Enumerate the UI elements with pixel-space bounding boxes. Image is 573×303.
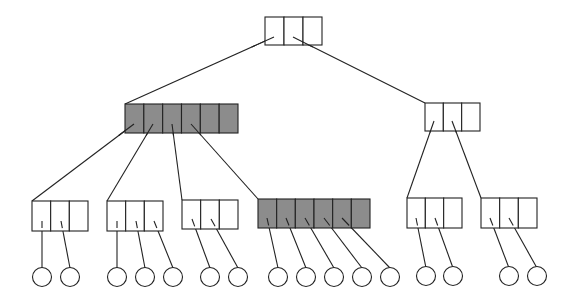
node-cell (107, 201, 126, 231)
node-cell (314, 199, 333, 228)
node-cell (200, 104, 219, 133)
node-leaf-1 (32, 201, 88, 231)
node-cell (500, 198, 519, 228)
node-cell (144, 201, 163, 231)
record-circle (229, 268, 248, 287)
node-cell (144, 104, 163, 133)
leaf-records (33, 267, 547, 287)
record-circle (417, 267, 436, 286)
node-root (265, 17, 322, 45)
node-cell (258, 199, 277, 228)
record-circle (164, 268, 183, 287)
node-cell (407, 198, 425, 228)
node-cell (265, 17, 284, 45)
node-cell (182, 104, 201, 133)
b-tree-diagram (0, 0, 573, 303)
node-cell (443, 103, 461, 131)
record-circle (297, 268, 316, 287)
node-leaf-5 (407, 198, 462, 228)
record-circle (269, 268, 288, 287)
node-cell (32, 201, 51, 231)
node-cell (518, 198, 537, 228)
node-cell (425, 198, 443, 228)
node-cell (126, 201, 145, 231)
node-cell (219, 200, 238, 229)
record-circle (444, 267, 463, 286)
record-circle (381, 268, 400, 287)
node-cell (444, 198, 462, 228)
node-leaf-3 (182, 200, 238, 229)
record-circle (61, 268, 80, 287)
node-leaf-4 (258, 199, 370, 228)
node-leaf-6 (481, 198, 537, 228)
record-circle (353, 268, 372, 287)
node-cell (69, 201, 88, 231)
node-cell (462, 103, 480, 131)
node-cell (303, 17, 322, 45)
record-circle (136, 268, 155, 287)
node-cell (277, 199, 296, 228)
tree-edges (32, 37, 537, 268)
node-cell (333, 199, 352, 228)
node-cell (51, 201, 70, 231)
record-circle (528, 267, 547, 286)
record-circle (500, 267, 519, 286)
node-cell (351, 199, 370, 228)
node-cell (201, 200, 220, 229)
node-cell (182, 200, 201, 229)
node-mid-left (125, 104, 238, 133)
record-circle (325, 268, 344, 287)
node-mid-right (425, 103, 480, 131)
node-cell (425, 103, 443, 131)
record-circle (33, 268, 52, 287)
record-circle (201, 268, 220, 287)
record-circle (108, 268, 127, 287)
node-cell (219, 104, 238, 133)
node-leaf-2 (107, 201, 163, 231)
node-cell (481, 198, 500, 228)
node-cell (295, 199, 314, 228)
